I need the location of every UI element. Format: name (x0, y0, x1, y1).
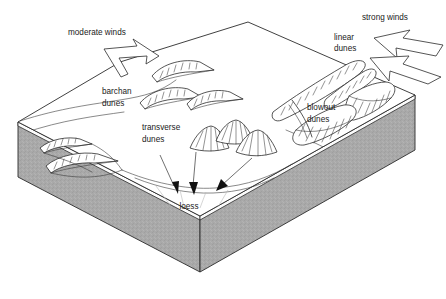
label-blowout-line2: dunes (307, 115, 329, 124)
label-linear-line1: linear (334, 33, 354, 42)
dune-block-diagram: moderate winds strong winds barchan dune… (0, 0, 446, 299)
label-transverse-line2: dunes (142, 135, 164, 144)
label-loess: loess (179, 202, 198, 211)
strong-winds-arrow (370, 30, 443, 84)
label-barchan-line1: barchan (102, 87, 132, 96)
label-strong-winds: strong winds (362, 13, 408, 22)
label-transverse-line1: transverse (142, 123, 181, 132)
label-linear-line2: dunes (334, 44, 356, 53)
block-diagram-canvas: moderate winds strong winds barchan dune… (0, 0, 446, 299)
label-moderate-winds: moderate winds (68, 28, 126, 37)
label-blowout-line1: blowout (307, 103, 336, 112)
label-barchan-line2: dunes (102, 99, 124, 108)
